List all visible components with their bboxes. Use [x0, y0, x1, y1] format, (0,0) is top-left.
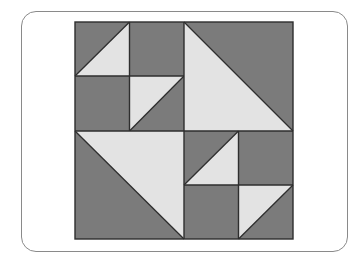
quilt-block-diagram [0, 0, 350, 264]
